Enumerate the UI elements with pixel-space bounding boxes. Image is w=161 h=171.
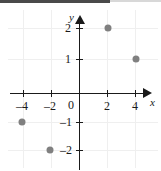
x-tick-label-2: 2	[104, 100, 110, 112]
x-tick-mark	[23, 90, 24, 97]
gridline-vertical	[23, 10, 24, 168]
x-tick-label-4: 4	[132, 100, 138, 112]
y-tick-label-minus-2: –2	[60, 144, 72, 156]
y-tick-mark	[76, 122, 83, 123]
data-point	[47, 147, 54, 154]
x-tick-mark	[135, 90, 136, 97]
y-tick-label-minus-1: –1	[60, 116, 72, 128]
gridline-horizontal	[8, 28, 158, 29]
data-point	[133, 56, 140, 63]
x-axis-label: x	[150, 96, 155, 108]
gridline-horizontal	[8, 122, 158, 123]
gridline-vertical	[107, 10, 108, 168]
top-dark-band	[0, 0, 110, 3]
gridline-horizontal	[8, 150, 158, 151]
x-axis-line	[10, 93, 144, 94]
y-axis-label: y	[69, 11, 74, 23]
x-tick-label-minus-2: –2	[44, 100, 56, 112]
data-point	[105, 25, 112, 32]
x-tick-mark	[51, 90, 52, 97]
gridline-vertical	[51, 10, 52, 168]
y-tick-mark	[76, 59, 83, 60]
coordinate-plane: 2 1 –1 –2 –4 –2 2 4 0 y x	[0, 4, 161, 171]
y-axis-arrow-icon	[75, 15, 85, 24]
gridline-vertical	[135, 10, 136, 168]
y-tick-mark	[76, 150, 83, 151]
scatter-plot-screenshot: 2 1 –1 –2 –4 –2 2 4 0 y x	[0, 0, 161, 171]
y-axis-line	[79, 22, 80, 170]
y-tick-label-2: 2	[65, 22, 71, 34]
data-point	[19, 119, 26, 126]
x-tick-label-minus-4: –4	[16, 100, 28, 112]
origin-label: 0	[68, 99, 74, 111]
y-tick-mark	[76, 28, 83, 29]
top-light-band	[110, 0, 161, 2]
y-tick-label-1: 1	[65, 53, 71, 65]
x-tick-mark	[107, 90, 108, 97]
